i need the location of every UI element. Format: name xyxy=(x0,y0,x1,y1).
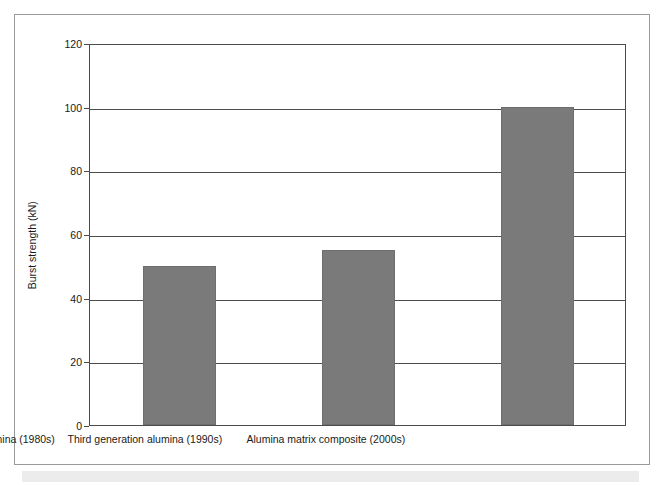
y-axis-tick xyxy=(84,108,89,109)
y-axis-tick-labels: 020406080100120 xyxy=(50,44,82,426)
x-axis-category-label: Third generation alumina (1990s) xyxy=(68,433,223,446)
y-axis-tick xyxy=(84,171,89,172)
y-axis-tick-label: 120 xyxy=(64,39,82,50)
plot-frame xyxy=(89,44,626,426)
y-axis-tick xyxy=(84,299,89,300)
y-axis-tick-label: 40 xyxy=(70,294,82,305)
x-axis-category-label: Second generation alumina (1980s) xyxy=(0,433,55,446)
bar xyxy=(143,266,216,425)
scan-artifact-band xyxy=(22,471,639,482)
y-axis-tick-label: 100 xyxy=(64,103,82,114)
y-axis-tick-label: 20 xyxy=(70,357,82,368)
x-axis-category-label: Alumina matrix composite (2000s) xyxy=(247,433,406,446)
y-axis-tick-label: 80 xyxy=(70,166,82,177)
chart-plot-area xyxy=(89,44,626,426)
bar xyxy=(501,107,574,425)
x-axis-category-labels: Second generation alumina (1980s)Third g… xyxy=(60,433,640,449)
y-axis-title-label: Burst strength (kN) xyxy=(27,201,38,289)
y-axis-tick-label: 60 xyxy=(70,230,82,241)
y-axis-title: Burst strength (kN) xyxy=(23,185,41,305)
y-axis-tick xyxy=(84,426,89,427)
y-axis-tick xyxy=(84,44,89,45)
y-axis-tick xyxy=(84,362,89,363)
bar xyxy=(322,250,395,425)
y-axis-tick xyxy=(84,235,89,236)
y-axis-tick-label: 0 xyxy=(76,421,82,432)
